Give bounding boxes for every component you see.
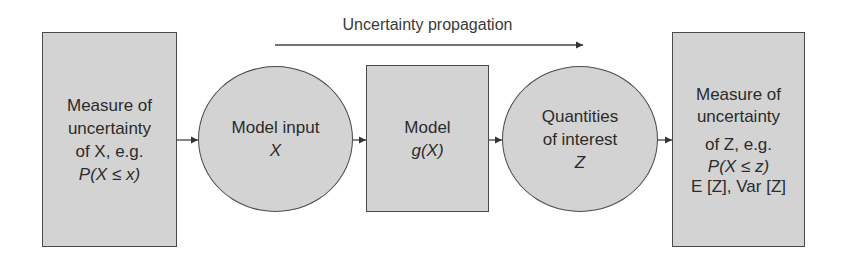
node-formula: P(X ≤ z) <box>708 156 769 178</box>
node-text: of interest <box>543 128 618 151</box>
node-moments: E [Z], Var [Z] <box>691 178 786 196</box>
node-text: Measure of <box>696 84 781 106</box>
node-text: uncertainty <box>68 117 151 140</box>
node-variable: Z <box>575 151 585 174</box>
model-input-ellipse: Model input X <box>198 66 353 212</box>
node-text: Measure of <box>67 94 152 117</box>
quantities-of-interest-ellipse: Quantities of interest Z <box>502 66 658 212</box>
node-text: uncertainty <box>697 106 780 128</box>
input-uncertainty-box: Measure of uncertainty of X, e.g. P(X ≤ … <box>42 32 177 247</box>
node-text: Model <box>404 116 450 139</box>
node-text: of X, e.g. <box>75 140 143 163</box>
node-text: of Z, e.g. <box>705 134 772 156</box>
uncertainty-propagation-diagram: Uncertainty propagation Measure of uncer… <box>0 0 843 261</box>
node-text: Quantities <box>542 105 619 128</box>
uncertainty-propagation-label: Uncertainty propagation <box>270 16 585 34</box>
output-uncertainty-box: Measure of uncertainty of Z, e.g. P(X ≤ … <box>672 32 805 247</box>
node-formula: P(X ≤ x) <box>79 163 140 186</box>
node-text: Model input <box>232 116 320 139</box>
node-function: g(X) <box>411 139 443 162</box>
model-box: Model g(X) <box>366 65 489 212</box>
node-variable: X <box>270 139 281 162</box>
